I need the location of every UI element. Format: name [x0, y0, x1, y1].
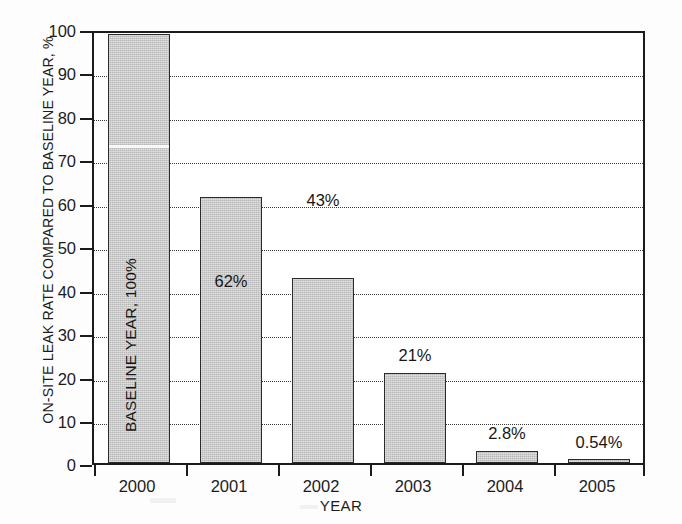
gridline-80 — [94, 120, 643, 121]
bar-value-2001: 62% — [200, 272, 262, 291]
bar-2002[interactable] — [292, 278, 354, 463]
y-tick-mark-50 — [80, 248, 92, 250]
y-tick-mark-80 — [80, 118, 92, 120]
x-tick-label-2004: 2004 — [460, 477, 550, 496]
x-tick-mark-4 — [462, 465, 464, 476]
y-tick-label-80: 80 — [32, 110, 76, 127]
x-tick-mark-5 — [554, 465, 556, 476]
gridline-10 — [94, 424, 643, 425]
scan-speckle — [150, 498, 176, 503]
gridline-60 — [94, 207, 643, 208]
bar-value-2005: 0.54% — [560, 433, 638, 452]
x-axis-title: YEAR — [0, 497, 682, 514]
y-tick-label-40: 40 — [32, 284, 76, 301]
bar-value-2004: 2.8% — [472, 424, 542, 443]
plot-inner: BASELINE YEAR, 100% 62% 43% 21% 2.8% 0.5… — [94, 33, 643, 463]
gridline-30 — [94, 337, 643, 338]
bar-chart-figure: ON-SITE LEAK RATE COMPARED TO BASELINE Y… — [0, 0, 682, 524]
y-tick-mark-100 — [80, 31, 92, 33]
bar-value-2002: 43% — [292, 191, 354, 210]
gridline-20 — [94, 381, 643, 382]
y-tick-mark-0 — [80, 465, 92, 467]
y-tick-label-0: 0 — [32, 457, 76, 474]
x-tick-label-2002: 2002 — [276, 477, 366, 496]
bar-value-2003: 21% — [384, 346, 446, 365]
y-tick-mark-60 — [80, 205, 92, 207]
x-tick-label-2003: 2003 — [368, 477, 458, 496]
plot-area: BASELINE YEAR, 100% 62% 43% 21% 2.8% 0.5… — [92, 31, 645, 465]
gridline-70 — [94, 163, 643, 164]
y-tick-mark-70 — [80, 161, 92, 163]
bar-2003[interactable] — [384, 373, 446, 463]
y-tick-label-90: 90 — [32, 66, 76, 83]
y-tick-label-50: 50 — [32, 240, 76, 257]
x-tick-mark-6 — [643, 465, 645, 476]
x-tick-mark-2 — [278, 465, 280, 476]
scan-artifact — [109, 145, 169, 148]
y-tick-label-100: 100 — [32, 23, 76, 40]
y-tick-mark-10 — [80, 422, 92, 424]
bar-2001[interactable] — [200, 197, 262, 463]
x-tick-mark-1 — [186, 465, 188, 476]
y-tick-mark-20 — [80, 379, 92, 381]
y-tick-label-10: 10 — [32, 414, 76, 431]
gridline-90 — [94, 76, 643, 77]
x-tick-label-2005: 2005 — [552, 477, 642, 496]
y-tick-label-30: 30 — [32, 327, 76, 344]
bar-2005[interactable] — [568, 459, 630, 463]
x-tick-label-2001: 2001 — [184, 477, 274, 496]
bar-2000[interactable]: BASELINE YEAR, 100% — [108, 34, 170, 463]
x-tick-label-2000: 2000 — [92, 477, 182, 496]
y-tick-label-20: 20 — [32, 371, 76, 388]
x-tick-mark-0 — [94, 465, 96, 476]
gridline-50 — [94, 250, 643, 251]
y-tick-label-60: 60 — [32, 197, 76, 214]
bar-2004[interactable] — [476, 451, 538, 463]
gridline-40 — [94, 294, 643, 295]
scan-speckle — [300, 505, 318, 509]
bar-label-2000: BASELINE YEAR, 100% — [122, 258, 140, 432]
y-tick-mark-40 — [80, 292, 92, 294]
y-tick-mark-90 — [80, 74, 92, 76]
y-tick-mark-30 — [80, 335, 92, 337]
x-tick-mark-3 — [370, 465, 372, 476]
y-tick-label-70: 70 — [32, 153, 76, 170]
